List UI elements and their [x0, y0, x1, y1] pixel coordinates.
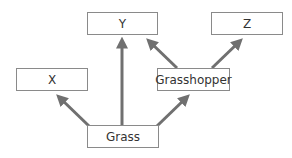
node-y: Y: [87, 12, 158, 35]
node-y-label: Y: [119, 17, 126, 31]
node-grass-label: Grass: [106, 130, 140, 144]
node-grass: Grass: [87, 125, 159, 148]
arrow-grasshopper-to-z: [212, 42, 239, 68]
arrow-grass-to-grasshopper: [157, 98, 186, 126]
arrow-grasshopper-to-y: [150, 42, 177, 68]
node-x-label: X: [48, 73, 56, 87]
node-z: Z: [211, 12, 283, 35]
node-x: X: [16, 68, 88, 91]
arrow-grass-to-x: [60, 98, 89, 126]
node-z-label: Z: [243, 17, 251, 31]
node-grasshopper-label: Grasshopper: [155, 73, 232, 87]
node-grasshopper: Grasshopper: [157, 68, 230, 91]
